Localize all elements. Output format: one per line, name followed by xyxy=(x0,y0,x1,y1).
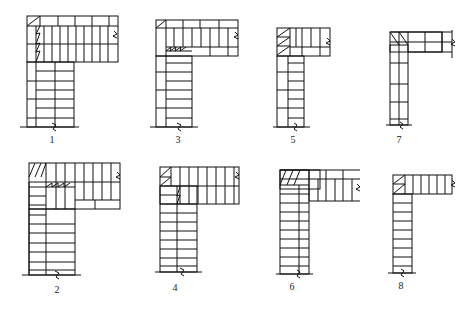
diagram-label-7: 7 xyxy=(397,134,402,145)
diagram-2 xyxy=(22,163,120,279)
diagram-6 xyxy=(276,170,360,278)
diagram-label-3: 3 xyxy=(176,134,181,145)
diagram-label-8: 8 xyxy=(399,280,404,291)
diagram-label-5: 5 xyxy=(291,134,296,145)
bond-diagrams-canvas xyxy=(0,0,476,314)
diagram-7 xyxy=(386,30,455,129)
diagram-4 xyxy=(155,167,239,276)
diagram-3 xyxy=(150,20,238,131)
diagram-label-6: 6 xyxy=(290,281,295,292)
diagram-label-1: 1 xyxy=(50,134,55,145)
diagram-5 xyxy=(273,28,330,131)
diagram-8 xyxy=(388,175,455,277)
diagram-label-4: 4 xyxy=(173,282,178,293)
diagram-1 xyxy=(20,16,118,131)
diagram-label-2: 2 xyxy=(55,284,60,295)
